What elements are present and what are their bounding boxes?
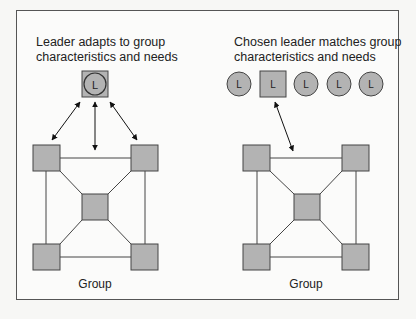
svg-text:L: L (368, 79, 374, 90)
left-leader: L (82, 71, 108, 97)
svg-text:L: L (92, 79, 98, 91)
left-group-nodes (33, 145, 158, 270)
svg-text:L: L (236, 79, 242, 90)
right-group-label: Group (281, 277, 331, 291)
svg-text:L: L (303, 79, 309, 90)
diagram-graphics: L L L L L L (0, 0, 416, 319)
right-leaders: L L L L L (227, 71, 383, 97)
svg-text:L: L (336, 79, 342, 90)
svg-text:L: L (270, 79, 276, 90)
right-arrow (275, 102, 293, 151)
right-group-nodes (243, 145, 369, 270)
left-arrows (52, 102, 137, 150)
left-group-label: Group (70, 277, 120, 291)
